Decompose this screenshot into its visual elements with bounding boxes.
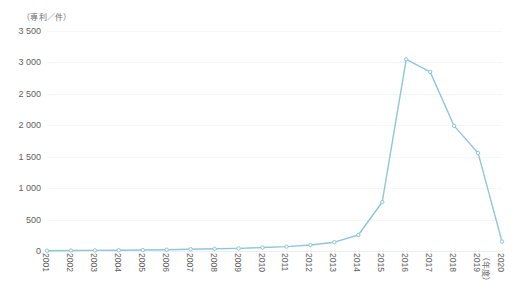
- x-tick-label: 2004: [113, 253, 123, 272]
- y-tick-label: 2 000: [0, 120, 41, 130]
- y-tick-label: 1 000: [0, 183, 41, 193]
- x-tick-label: 2013: [328, 253, 338, 272]
- x-tick-label: 2001: [41, 253, 51, 272]
- y-tick-label: 0: [0, 246, 41, 256]
- x-tick-label: 2007: [185, 253, 195, 272]
- x-tick-label: 2017: [424, 253, 434, 272]
- x-tick-label: 2018: [448, 253, 458, 272]
- data-point-marker: [309, 243, 312, 246]
- data-point-marker: [69, 249, 72, 252]
- series-polyline: [47, 59, 502, 250]
- y-tick-label: 1 500: [0, 152, 41, 162]
- x-tick-label: 2008: [209, 253, 219, 272]
- data-point-marker: [357, 233, 360, 236]
- y-axis-tick-labels: 05001 0001 5002 0002 5003 0003 500: [0, 31, 41, 251]
- y-tick-label: 500: [0, 215, 41, 225]
- data-point-marker: [93, 249, 96, 252]
- data-point-marker: [428, 70, 431, 73]
- y-tick-label: 3 000: [0, 57, 41, 67]
- x-tick-label: 2011: [280, 253, 290, 271]
- data-point-marker: [237, 247, 240, 250]
- x-tick-label: 2015: [376, 253, 386, 272]
- x-axis-unit-label: （年度）: [481, 253, 492, 285]
- gridline: [47, 251, 502, 252]
- data-point-marker: [141, 248, 144, 251]
- y-tick-label: 2 500: [0, 89, 41, 99]
- plot-area: [47, 31, 502, 251]
- data-point-marker: [405, 58, 408, 61]
- data-point-marker: [213, 247, 216, 250]
- data-point-marker: [45, 249, 48, 252]
- x-tick-label: 2020: [496, 253, 506, 272]
- x-tick-label: 2012: [304, 253, 314, 272]
- y-tick-label: 3 500: [0, 26, 41, 36]
- line-chart: （専利／件） 05001 0001 5002 0002 5003 0003 50…: [0, 0, 515, 305]
- data-point-marker: [117, 249, 120, 252]
- x-tick-label: 2016: [400, 253, 410, 272]
- data-point-marker: [381, 200, 384, 203]
- y-axis-unit-label: （専利／件）: [22, 11, 72, 22]
- x-tick-label: 2014: [352, 253, 362, 272]
- data-point-marker: [500, 240, 503, 243]
- series-line-patent-count: [47, 31, 502, 251]
- x-axis-tick-labels: 2001200220032004200520062007200820092010…: [47, 253, 502, 303]
- data-point-marker: [333, 241, 336, 244]
- x-tick-label: 2009: [233, 253, 243, 272]
- data-point-marker: [261, 246, 264, 249]
- data-point-marker: [165, 248, 168, 251]
- x-tick-label: 2003: [89, 253, 99, 272]
- x-tick-label: 2005: [137, 253, 147, 272]
- data-point-marker: [285, 245, 288, 248]
- data-point-marker: [476, 151, 479, 154]
- data-point-marker: [452, 124, 455, 127]
- x-tick-label: 2010: [257, 253, 267, 272]
- x-tick-label: 2002: [65, 253, 75, 272]
- data-point-marker: [189, 248, 192, 251]
- x-tick-label: 2006: [161, 253, 171, 272]
